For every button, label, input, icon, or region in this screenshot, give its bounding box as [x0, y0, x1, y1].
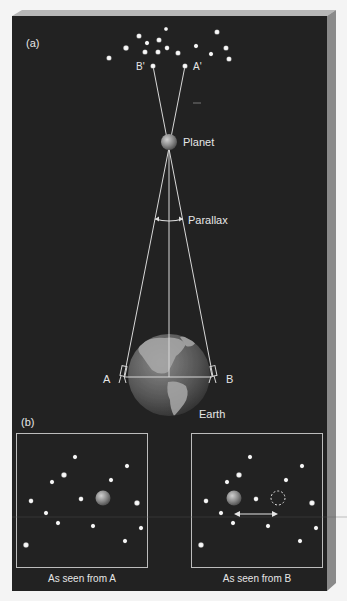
star: [91, 524, 95, 528]
parallax-label: Parallax: [188, 214, 228, 226]
star: [23, 542, 29, 548]
star: [298, 539, 302, 543]
star: [194, 44, 198, 48]
star: [209, 52, 213, 56]
star: [123, 539, 127, 543]
view-a-caption: As seen from A: [48, 573, 116, 584]
star: [136, 33, 141, 38]
star: [214, 29, 219, 34]
parallax-diagram: (a) B' A' Planet Parallax A B: [0, 0, 347, 601]
star: [139, 526, 143, 530]
star: [165, 46, 170, 51]
star: [145, 41, 149, 45]
star-b-prime: [150, 63, 155, 68]
star: [142, 49, 147, 54]
star: [164, 27, 168, 31]
star: [123, 45, 129, 51]
star: [29, 499, 34, 504]
star: [300, 464, 304, 468]
star: [155, 49, 160, 54]
star: [284, 478, 288, 482]
star-b-prime-label: B': [136, 61, 145, 72]
star: [109, 478, 113, 482]
star-a-prime-label: A': [193, 61, 202, 72]
star: [125, 464, 129, 468]
star: [204, 499, 209, 504]
view-b-caption: As seen from B: [223, 573, 292, 584]
star: [314, 526, 318, 530]
earth-label: Earth: [199, 408, 225, 420]
star: [236, 472, 242, 478]
planet-view-a: [96, 491, 111, 506]
star: [226, 56, 231, 61]
planet: [161, 134, 177, 150]
star: [61, 472, 67, 478]
planet-view-b: [227, 491, 242, 506]
planet-label: Planet: [183, 136, 214, 148]
star: [56, 521, 60, 525]
star: [266, 524, 270, 528]
star: [309, 500, 315, 506]
point-a-label: A: [103, 373, 111, 385]
star: [223, 45, 228, 50]
star-a-prime: [182, 63, 187, 68]
star: [231, 521, 235, 525]
earth: [128, 334, 210, 416]
panel-side-bevel: [327, 10, 336, 591]
star: [73, 455, 77, 459]
star: [198, 542, 204, 548]
star: [175, 50, 180, 55]
panel-top-bevel: [12, 10, 336, 16]
point-b-label: B: [226, 373, 233, 385]
star: [254, 497, 259, 502]
star: [225, 480, 229, 484]
star: [134, 500, 140, 506]
star: [79, 497, 84, 502]
panel-a-label: (a): [26, 37, 39, 49]
panel-b-label: (b): [21, 416, 34, 428]
star: [44, 511, 48, 515]
star: [219, 511, 223, 515]
star: [106, 55, 111, 60]
star: [248, 455, 252, 459]
star: [50, 480, 54, 484]
star: [156, 37, 161, 42]
